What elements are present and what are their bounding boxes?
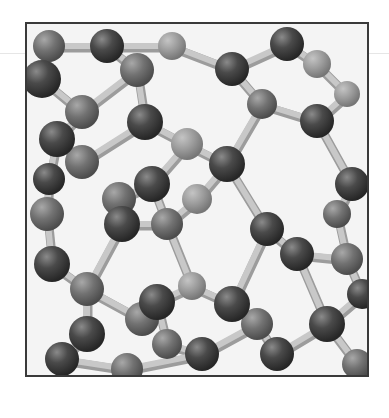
atom-sphere	[214, 286, 250, 322]
atom-sphere	[139, 284, 175, 320]
atom-sphere	[209, 146, 245, 182]
atom-sphere	[33, 163, 65, 195]
atom-sphere	[309, 306, 345, 342]
atom-sphere	[151, 208, 183, 240]
atom-sphere	[90, 29, 124, 63]
atom-sphere	[303, 50, 331, 78]
atom-sphere	[34, 246, 70, 282]
atom-sphere	[127, 104, 163, 140]
atom-sphere	[334, 81, 360, 107]
atom-sphere	[30, 197, 64, 231]
atom-sphere	[270, 27, 304, 61]
atom-sphere	[185, 337, 219, 371]
atom-sphere	[323, 200, 351, 228]
atom-sphere	[134, 166, 170, 202]
atom-sphere	[111, 353, 143, 375]
atom-sphere	[65, 95, 99, 129]
lattice-model-photo	[25, 22, 369, 377]
atom-sphere	[215, 52, 249, 86]
atom-sphere	[247, 89, 277, 119]
atom-sphere	[280, 237, 314, 271]
atom-sphere	[250, 212, 284, 246]
atom-sphere	[171, 128, 203, 160]
atom-sphere	[45, 342, 79, 375]
atom-sphere	[104, 206, 140, 242]
atom-sphere	[182, 184, 212, 214]
atom-sphere	[260, 337, 294, 371]
atom-sphere	[152, 329, 182, 359]
atom-spheres	[27, 27, 367, 375]
atom-sphere	[33, 30, 65, 62]
atom-sphere	[120, 53, 154, 87]
atom-sphere	[69, 316, 105, 352]
atom-sphere	[158, 32, 186, 60]
atom-sphere	[70, 272, 104, 306]
atom-sphere	[335, 167, 367, 201]
atom-sphere	[331, 243, 363, 275]
atom-sphere	[178, 272, 206, 300]
atom-sphere	[300, 104, 334, 138]
atom-sphere	[39, 121, 75, 157]
crystal-lattice-illustration	[27, 24, 367, 375]
